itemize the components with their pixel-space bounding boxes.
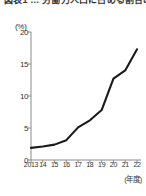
figure-container: 図表1 … 労働力人口に占める割合の推移 (%) 05101520 (年度) 2… [0,0,146,196]
x-tick-label: 16 [63,161,70,168]
x-tick-label: 15 [51,161,58,168]
x-tick-label: 20 [110,161,117,168]
y-tick-label: 5 [8,124,28,133]
x-tick-label: 14 [39,161,46,168]
x-tick-label: 18 [86,161,93,168]
y-tick-label: 15 [8,60,28,69]
figure-title-strip: 図表1 … 労働力人口に占める割合の推移 [0,0,146,7]
x-axis-caption: (年度) [124,173,142,184]
y-tick-label: 10 [8,92,28,101]
chart-plot-area: (%) 05101520 (年度) 2013141516171819202122 [0,8,146,196]
figure-title: 図表1 … 労働力人口に占める割合の推移 [4,0,146,6]
y-tick-label: 20 [8,28,28,37]
x-tick-label: 2013 [24,161,38,168]
x-tick-label: 17 [75,161,82,168]
x-axis-labels: (年度) 2013141516171819202122 [0,161,146,171]
data-series-line [31,49,137,148]
x-tick-label: 19 [98,161,105,168]
x-tick-label: 21 [122,161,129,168]
x-tick-label: 22 [133,161,140,168]
